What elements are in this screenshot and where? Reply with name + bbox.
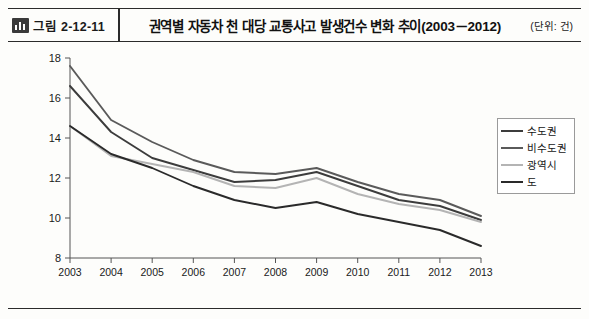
svg-text:12: 12 xyxy=(49,172,61,184)
legend-swatch-2 xyxy=(501,164,523,166)
svg-text:2006: 2006 xyxy=(182,266,206,278)
svg-text:2007: 2007 xyxy=(223,266,247,278)
legend-item-1: 비수도권 xyxy=(501,139,571,156)
svg-text:2005: 2005 xyxy=(141,266,165,278)
svg-text:10: 10 xyxy=(49,212,61,224)
bar-chart-icon xyxy=(12,18,29,33)
figure-label: 그림 2-12-11 xyxy=(33,16,105,35)
legend-item-2: 광역시 xyxy=(501,156,571,173)
svg-text:2003: 2003 xyxy=(58,266,82,278)
legend-swatch-0 xyxy=(501,130,523,132)
legend-item-3: 도 xyxy=(501,173,571,190)
svg-text:2011: 2011 xyxy=(388,266,411,278)
legend-swatch-1 xyxy=(501,147,523,149)
legend-swatch-3 xyxy=(501,181,523,183)
svg-text:14: 14 xyxy=(49,132,61,144)
legend-label-0: 수도권 xyxy=(527,123,557,138)
svg-text:2004: 2004 xyxy=(99,266,123,278)
legend-label-2: 광역시 xyxy=(527,157,557,172)
figure-page: 그림 2-12-11 권역별 자동차 천 대당 교통사고 발생건수 변화 추이(… xyxy=(0,0,589,319)
svg-text:2013: 2013 xyxy=(469,266,493,278)
chart-area: 8101214161820032004200520062007200820092… xyxy=(8,46,581,296)
svg-text:2012: 2012 xyxy=(428,266,452,278)
figure-unit: (단위: 건) xyxy=(530,18,581,33)
figure-header: 그림 2-12-11 권역별 자동차 천 대당 교통사고 발생건수 변화 추이(… xyxy=(8,8,581,42)
figure-title: 권역별 자동차 천 대당 교통사고 발생건수 변화 추이(2003－2012) xyxy=(120,15,531,35)
legend-label-3: 도 xyxy=(527,174,537,189)
bottom-rule xyxy=(8,308,581,309)
svg-text:16: 16 xyxy=(49,92,61,104)
legend-item-0: 수도권 xyxy=(501,122,571,139)
svg-text:8: 8 xyxy=(55,252,61,264)
figure-badge: 그림 2-12-11 xyxy=(8,16,116,35)
svg-text:18: 18 xyxy=(49,52,61,64)
svg-text:2009: 2009 xyxy=(305,266,329,278)
line-chart: 8101214161820032004200520062007200820092… xyxy=(8,46,581,296)
chart-legend: 수도권 비수도권 광역시 도 xyxy=(497,118,575,194)
svg-text:2008: 2008 xyxy=(264,266,288,278)
svg-text:2010: 2010 xyxy=(346,266,370,278)
legend-label-1: 비수도권 xyxy=(527,140,567,155)
